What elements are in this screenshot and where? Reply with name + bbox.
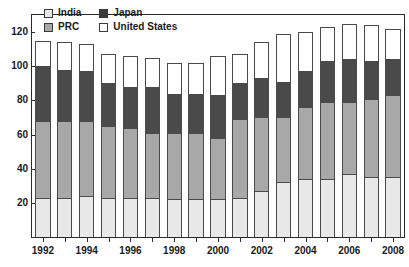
bar-segment-prc (167, 133, 182, 200)
bar-segment-united-states (123, 56, 138, 87)
bar-2003 (276, 34, 291, 237)
y-axis-tick-label: 60 (17, 130, 28, 140)
x-axis-tick-label: 2008 (382, 245, 404, 256)
bar-segment-prc (101, 126, 116, 198)
legend-item-label: India (58, 8, 81, 18)
bar-segment-japan (35, 66, 50, 121)
bar-segment-japan (123, 87, 138, 128)
legend-swatch-icon (44, 23, 53, 32)
bar-segment-india (298, 179, 313, 237)
bar-segment-india (210, 199, 225, 237)
x-axis-tick-mark (240, 238, 241, 242)
bar-segment-united-states (364, 25, 379, 61)
bar-segment-japan (232, 83, 247, 119)
legend-item: United States (99, 20, 177, 34)
bar-segment-japan (79, 71, 94, 121)
bar-segment-united-states (298, 32, 313, 71)
legend-item: PRC (44, 20, 81, 34)
y-axis-tick-mark (31, 135, 35, 136)
bar-segment-india (79, 196, 94, 237)
x-axis-tick-label: 1998 (163, 245, 185, 256)
bar-2002 (254, 42, 269, 237)
x-axis-tick-label: 2006 (338, 245, 360, 256)
y-axis-tick-mark (31, 169, 35, 170)
bar-segment-japan (385, 59, 400, 95)
bar-segment-united-states (254, 42, 269, 78)
bar-segment-prc (79, 121, 94, 196)
bar-segment-united-states (167, 63, 182, 94)
bar-2001 (232, 54, 247, 237)
bar-1998 (167, 63, 182, 237)
bar-segment-india (232, 198, 247, 237)
bar-segment-united-states (232, 54, 247, 83)
bar-segment-india (145, 198, 160, 237)
bar-segment-japan (188, 94, 203, 133)
bar-segment-japan (167, 94, 182, 133)
bar-segment-prc (57, 121, 72, 198)
bar-segment-japan (145, 87, 160, 133)
legend-item: Japan (99, 6, 177, 20)
bar-segment-prc (145, 133, 160, 198)
bar-segment-prc (232, 119, 247, 198)
x-axis-tick-label: 1996 (119, 245, 141, 256)
bar-segment-united-states (79, 44, 94, 71)
bar-1997 (145, 58, 160, 237)
bar-1995 (101, 54, 116, 237)
bar-2005 (320, 27, 335, 237)
bar-1993 (57, 42, 72, 237)
x-axis-tick-mark (306, 238, 307, 242)
x-axis-tick-mark (371, 238, 372, 242)
bar-1996 (123, 56, 138, 237)
bar-segment-japan (298, 71, 313, 107)
bar-2004 (298, 32, 313, 237)
x-axis-tick-label: 1994 (76, 245, 98, 256)
y-axis-tick-label: 120 (11, 27, 28, 37)
x-axis-tick-mark (262, 238, 263, 242)
legend-swatch-icon (44, 9, 53, 18)
bar-segment-japan (254, 78, 269, 117)
bar-segment-prc (364, 99, 379, 178)
y-axis-labels: 20406080100120 (0, 0, 28, 267)
bar-segment-united-states (320, 27, 335, 61)
bar-2007 (364, 25, 379, 237)
bar-segment-india (342, 174, 357, 237)
bar-segment-united-states (57, 42, 72, 69)
bar-segment-japan (276, 82, 291, 118)
legend-item-label: Japan (113, 8, 142, 18)
bar-1999 (188, 63, 203, 237)
legend-swatch-icon (99, 23, 108, 32)
bar-segment-prc (35, 121, 50, 198)
bar-segment-prc (385, 95, 400, 177)
x-axis-tick-mark (65, 238, 66, 242)
bar-2006 (342, 24, 357, 237)
bar-segment-india (188, 199, 203, 237)
bar-segment-prc (342, 102, 357, 174)
bar-segment-prc (210, 138, 225, 199)
y-axis-tick-mark (31, 100, 35, 101)
bar-segment-prc (254, 117, 269, 190)
bar-1992 (35, 41, 50, 237)
y-axis-tick-label: 100 (11, 61, 28, 71)
bar-segment-prc (123, 128, 138, 198)
bar-2000 (210, 56, 225, 237)
bar-segment-japan (364, 61, 379, 99)
x-axis-tick-mark (393, 238, 394, 242)
bar-segment-india (101, 198, 116, 237)
x-axis-tick-mark (327, 238, 328, 242)
bar-segment-united-states (101, 54, 116, 83)
x-axis-tick-mark (109, 238, 110, 242)
bar-segment-india (364, 177, 379, 237)
x-axis-tick-label: 2004 (294, 245, 316, 256)
bar-segment-prc (298, 107, 313, 179)
x-axis-tick-mark (218, 238, 219, 242)
bar-segment-japan (101, 83, 116, 126)
bar-segment-japan (320, 61, 335, 102)
x-axis-tick-mark (284, 238, 285, 242)
bar-segment-india (57, 198, 72, 237)
x-axis-tick-label: 1992 (32, 245, 54, 256)
bar-2008 (385, 29, 400, 237)
x-axis-tick-mark (87, 238, 88, 242)
x-axis-labels: 199219941996199820002002200420062008 (0, 243, 409, 263)
x-axis-tick-label: 2000 (207, 245, 229, 256)
x-axis-tick-mark (174, 238, 175, 242)
